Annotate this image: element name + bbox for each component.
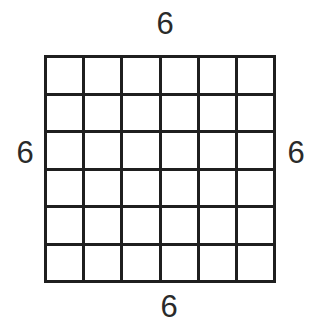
grid-cell — [162, 133, 197, 168]
grid-cell — [47, 96, 82, 131]
grid-cell — [162, 96, 197, 131]
grid-cell — [123, 133, 158, 168]
grid-cell — [238, 208, 273, 243]
grid-cell — [200, 246, 235, 281]
grid-cell — [162, 208, 197, 243]
grid-cell — [123, 96, 158, 131]
side-length-label-left: 6 — [5, 137, 45, 168]
grid-cell — [162, 246, 197, 281]
grid-cell — [162, 171, 197, 206]
grid-cell — [85, 133, 120, 168]
grid-cell — [238, 171, 273, 206]
grid-cell — [85, 246, 120, 281]
grid-cell — [123, 58, 158, 93]
grid-cell — [200, 58, 235, 93]
unit-square-grid — [44, 55, 276, 283]
grid-cell — [47, 133, 82, 168]
grid-cell — [162, 58, 197, 93]
grid-cell — [85, 96, 120, 131]
grid-cell — [47, 246, 82, 281]
grid-cell — [123, 171, 158, 206]
grid-cell — [200, 171, 235, 206]
grid-cell — [238, 133, 273, 168]
grid-cell — [200, 208, 235, 243]
grid-cell — [85, 171, 120, 206]
grid-cell — [238, 246, 273, 281]
grid-cell — [238, 96, 273, 131]
grid-cell — [200, 133, 235, 168]
grid-cell — [123, 208, 158, 243]
grid-cell — [123, 246, 158, 281]
side-length-label-right: 6 — [276, 137, 316, 168]
grid-cell — [47, 58, 82, 93]
side-length-label-top: 6 — [145, 8, 185, 39]
grid-cell — [238, 58, 273, 93]
grid-cell — [47, 171, 82, 206]
grid-cell — [85, 58, 120, 93]
side-length-label-bottom: 6 — [149, 291, 189, 322]
grid-cell — [85, 208, 120, 243]
grid-cell — [200, 96, 235, 131]
grid-cell — [47, 208, 82, 243]
figure-canvas: 6 6 6 6 — [0, 0, 321, 327]
